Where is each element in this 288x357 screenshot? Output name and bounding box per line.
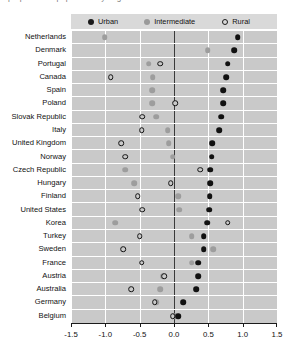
data-point-intermediate (112, 220, 118, 226)
data-point-urban (219, 114, 225, 120)
data-point-rural (139, 260, 145, 266)
category-label: Portugal (38, 60, 66, 68)
data-point-rural (135, 194, 141, 200)
axis-tick-label: 0.0 (169, 330, 180, 339)
chart-row: Netherlands (71, 31, 277, 44)
data-point-urban (180, 300, 186, 306)
axis-tick-label: -1.0 (99, 330, 112, 339)
category-label: Denmark (35, 47, 66, 55)
data-point-rural (140, 114, 146, 120)
axis-tick (105, 323, 106, 327)
data-point-intermediate (146, 61, 152, 67)
data-point-rural (168, 180, 174, 186)
category-label: Belgium (39, 312, 66, 320)
x-axis (71, 323, 277, 329)
category-label: Hungary (37, 179, 66, 187)
chart-row: Korea (71, 217, 277, 230)
data-point-rural (139, 127, 145, 133)
chart-row: United States (71, 203, 277, 216)
data-point-rural (225, 220, 231, 226)
data-point-rural (118, 140, 124, 146)
data-point-urban (206, 207, 212, 213)
chart-row: Poland (71, 97, 277, 110)
axis-tick-label: 0.5 (203, 330, 214, 339)
category-label: Australia (36, 285, 66, 293)
data-point-urban (217, 127, 223, 133)
data-point-urban (193, 286, 199, 292)
chart-row: Portugal (71, 58, 277, 71)
data-point-urban (225, 61, 231, 67)
axis-tick (71, 323, 72, 327)
category-label: Netherlands (25, 33, 66, 41)
category-label: Italy (52, 126, 66, 134)
chart-row: Slovak Republic (71, 111, 277, 124)
legend-item-rural: Rural (222, 17, 250, 26)
axis-tick (276, 323, 277, 327)
axis-tick-label: 1.5 (272, 330, 283, 339)
data-point-urban (204, 220, 210, 226)
category-label: Czech Republic (13, 166, 66, 174)
data-point-rural (157, 61, 163, 67)
chart-legend: Urban Intermediate Rural (71, 14, 277, 29)
category-label: Germany (35, 299, 66, 307)
filled-circle-icon (88, 19, 94, 25)
data-point-urban (175, 313, 181, 319)
category-label: Austria (42, 272, 66, 280)
data-point-intermediate (175, 194, 181, 200)
category-label: Poland (42, 100, 66, 108)
chart-row: Sweden (71, 243, 277, 256)
caption-text: proportion of population by degree of ur… (8, 0, 190, 2)
chart-row: Germany (71, 296, 277, 309)
data-point-rural (173, 101, 179, 107)
data-point-urban (235, 34, 241, 40)
scatter-plot-area: NetherlandsDenmarkPortugalCanadaSpainPol… (71, 31, 277, 323)
data-point-intermediate (210, 247, 216, 253)
data-point-urban (195, 260, 201, 266)
axis-tick-label: 1.0 (237, 330, 248, 339)
category-label: France (42, 259, 66, 267)
category-label: Spain (47, 86, 66, 94)
chart-row: Czech Republic (71, 164, 277, 177)
category-label: United Kingdom (12, 139, 66, 147)
data-point-urban (201, 233, 207, 239)
axis-tick-label: -1.5 (64, 330, 77, 339)
data-point-urban (195, 273, 201, 279)
axis-tick (174, 323, 175, 327)
category-label: Norway (40, 153, 66, 161)
category-label: Korea (46, 219, 66, 227)
data-point-urban (208, 167, 214, 173)
legend-item-intermediate: Intermediate (144, 17, 195, 26)
legend-item-urban: Urban (88, 17, 118, 26)
data-point-intermediate (177, 207, 183, 213)
data-point-rural (162, 273, 168, 279)
legend-label-urban: Urban (98, 17, 118, 26)
data-point-intermediate (189, 260, 195, 266)
data-point-intermediate (189, 233, 195, 239)
data-point-rural (137, 233, 143, 239)
legend-label-rural: Rural (232, 17, 250, 26)
data-point-urban (221, 87, 227, 93)
data-point-rural (197, 167, 203, 173)
data-point-rural (170, 313, 176, 319)
legend-label-intermediate: Intermediate (154, 17, 195, 26)
data-point-intermediate (205, 48, 211, 54)
data-point-intermediate (153, 114, 159, 120)
data-point-intermediate (122, 167, 128, 173)
category-label: Turkey (43, 232, 66, 240)
data-point-intermediate (149, 101, 155, 107)
data-point-urban (209, 154, 215, 160)
axis-tick-label: -0.5 (133, 330, 146, 339)
data-point-rural (122, 154, 128, 160)
chart-row: Italy (71, 124, 277, 137)
data-point-intermediate (166, 140, 172, 146)
category-label: Sweden (39, 246, 66, 254)
data-point-urban (232, 48, 238, 54)
data-point-urban (207, 194, 213, 200)
chart-row: Norway (71, 150, 277, 163)
x-axis-tick-labels: -1.5-1.0-0.50.00.51.01.5 (71, 330, 277, 342)
data-point-intermediate (149, 87, 155, 93)
chart-row: Austria (71, 270, 277, 283)
chart-row: Australia (71, 283, 277, 296)
data-point-urban (201, 247, 207, 253)
data-point-intermediate (165, 127, 171, 133)
